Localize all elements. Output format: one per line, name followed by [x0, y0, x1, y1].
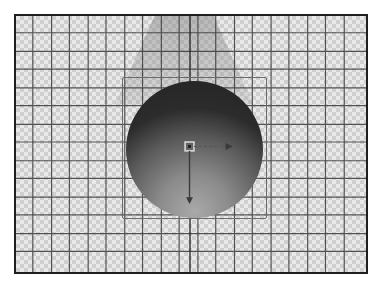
- pivot-handle-icon[interactable]: [185, 142, 194, 151]
- canvas-root: [0, 0, 385, 287]
- x-axis-arrow-icon[interactable]: [194, 143, 233, 150]
- transform-gizmo: [16, 16, 366, 272]
- canvas-viewport[interactable]: [14, 14, 368, 274]
- y-axis-arrow-icon[interactable]: [186, 151, 193, 204]
